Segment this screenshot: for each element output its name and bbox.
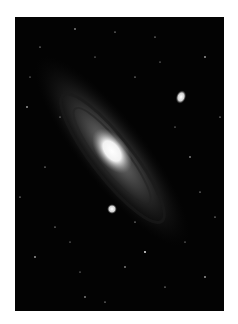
satellite-galaxy-m32 bbox=[107, 204, 117, 214]
galaxy-illustration bbox=[15, 17, 224, 311]
galaxy-photo bbox=[15, 17, 224, 311]
satellite-galaxy-m110 bbox=[174, 89, 188, 106]
